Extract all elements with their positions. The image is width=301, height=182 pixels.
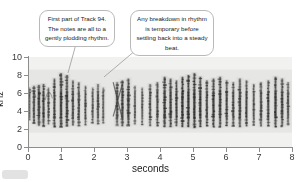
y-tick-label: 2 xyxy=(17,124,22,134)
y-tick-mark xyxy=(24,111,28,112)
spectrogram-figure: 012345678 1086420 seconds kHz First part… xyxy=(0,0,301,182)
y-tick-label: 4 xyxy=(17,106,22,116)
x-axis-title: seconds xyxy=(0,163,301,174)
callout-track-description: First part of Track 94. The notes are al… xyxy=(39,10,115,47)
x-tick-label: 7 xyxy=(256,152,261,162)
y-tick-label: 10 xyxy=(12,52,22,62)
y-tick-mark xyxy=(24,129,28,130)
x-tick-label: 3 xyxy=(124,152,129,162)
x-tick-label: 2 xyxy=(91,152,96,162)
x-tick-label: 0 xyxy=(25,152,30,162)
y-axis-title: kHz xyxy=(0,91,5,107)
x-tick-label: 6 xyxy=(223,152,228,162)
x-tick-label: 4 xyxy=(157,152,162,162)
y-tick-label: 8 xyxy=(17,70,22,80)
y-tick-mark xyxy=(24,93,28,94)
y-tick-mark xyxy=(24,147,28,148)
spectrogram-image xyxy=(28,57,292,147)
y-axis-line xyxy=(28,56,29,148)
y-tick-label: 0 xyxy=(17,142,22,152)
y-tick-mark xyxy=(24,57,28,58)
page-corner-artifact xyxy=(2,170,28,179)
x-tick-label: 1 xyxy=(58,152,63,162)
plot-area xyxy=(28,57,292,147)
y-tick-label: 6 xyxy=(17,88,22,98)
y-tick-mark xyxy=(24,75,28,76)
callout-rhythm-description: Any breakdown in rhythm is temporary bef… xyxy=(130,10,214,56)
x-tick-label: 8 xyxy=(289,152,294,162)
x-tick-label: 5 xyxy=(190,152,195,162)
